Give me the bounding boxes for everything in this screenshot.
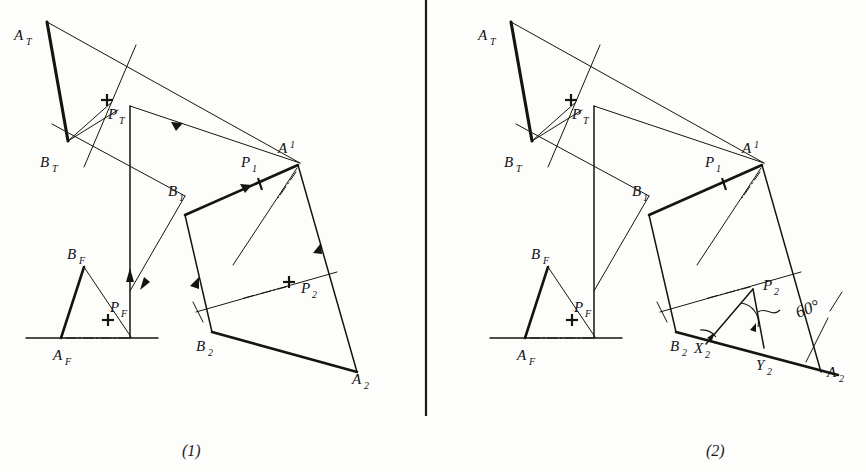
caption-panel-2: (2) xyxy=(706,442,725,460)
panel2-arc-tick-y2 xyxy=(750,323,756,332)
panel1-top-edge-to-a1 xyxy=(130,106,300,163)
label-a-one-sub-p2: 1 xyxy=(754,139,759,150)
label-p-one-p2: P xyxy=(704,154,714,170)
label-x-two-sub-p2: 2 xyxy=(705,349,710,360)
panel2-a1-a2-edge xyxy=(762,165,821,372)
panel1-at-bt-edge xyxy=(47,22,68,141)
label-a-two-sub-p1: 2 xyxy=(364,380,369,391)
panel1-a1-dashdot xyxy=(278,172,296,198)
label-p-front-sub-p1: F xyxy=(120,308,128,319)
panel1-bf-ground-edge xyxy=(84,267,131,337)
label-b-one-sub-p2: 1 xyxy=(643,192,648,203)
label-p-front-p1: P xyxy=(109,299,119,315)
label-y-two-p2: Y xyxy=(756,357,766,373)
panel1-a1-aux-line xyxy=(233,168,297,265)
panel1-p2-line-tick xyxy=(193,302,203,322)
label-b-front-p2: B xyxy=(531,246,540,262)
label-p-two-sub-p2: 2 xyxy=(774,286,779,297)
label-a-front-sub-p2: F xyxy=(528,356,536,367)
panel2-bt-pt-line-a xyxy=(532,102,576,141)
label-p-one-sub-p1: 1 xyxy=(252,163,257,174)
panel2-b1-b2-edge xyxy=(649,215,676,332)
label-a-top-sub-p1: T xyxy=(26,36,33,47)
panel1-top-edge-arrow xyxy=(171,122,183,131)
label-b-two-p2: B xyxy=(670,338,679,354)
panel1-lower-edge-arrow xyxy=(140,277,150,290)
panel2-at-bt-edge xyxy=(511,22,532,141)
label-b-top-sub-p2: T xyxy=(516,163,523,174)
label-a-two-p1: A xyxy=(351,371,362,387)
caption-panel-1: (1) xyxy=(182,442,201,460)
panel1-b2-a2-edge xyxy=(212,332,357,372)
label-p-front-p2: P xyxy=(573,299,583,315)
panel1-p2-dashdot xyxy=(244,287,286,298)
panel2-bf-ground-edge xyxy=(548,267,595,337)
label-b-two-p1: B xyxy=(196,338,205,354)
label-b-front-p1: B xyxy=(67,246,76,262)
technical-drawing-canvas: A T B T P T B F A F P F B 1 P 1 A 1 B 2 … xyxy=(0,0,866,472)
label-y-two-sub-p2: 2 xyxy=(767,366,772,377)
panel2-p2-line-tick xyxy=(657,302,667,322)
panel2-p2-dashdot xyxy=(708,287,750,298)
panel2-pf-crossmark xyxy=(566,314,578,326)
panel2-a1-aux-line xyxy=(697,168,761,265)
label-b-front-sub-p1: F xyxy=(78,255,86,266)
label-a-front-p2: A xyxy=(516,347,527,363)
label-x-two-p2: X xyxy=(693,340,704,356)
panel2-angle-leader-line-top xyxy=(830,292,842,311)
label-p-two-p2: P xyxy=(762,277,772,293)
panel2-angle-leader xyxy=(758,310,780,313)
label-p-top-sub-p1: T xyxy=(119,115,126,126)
label-a-top-sub-p2: T xyxy=(490,36,497,47)
label-b-top-sub-p1: T xyxy=(52,163,59,174)
panel1-projector-arrowhead xyxy=(126,268,134,282)
panel1-b1-a1-edge xyxy=(185,165,298,215)
label-p-two-sub-p1: 2 xyxy=(312,289,317,300)
label-angle-60-p2: 60° xyxy=(793,296,822,322)
label-b-two-sub-p1: 2 xyxy=(208,347,213,358)
label-p-top-p2: P xyxy=(571,106,581,122)
panel2-lower-parallel xyxy=(516,124,649,196)
panel2-b1-a1-edge xyxy=(649,165,762,215)
panel1-a1a2-arrow xyxy=(313,243,322,254)
panel1-bt-pt-line-a xyxy=(68,102,112,141)
panel1-b1b2-arrow xyxy=(190,277,199,289)
figure-page: A T B T P T B F A F P F B 1 P 1 A 1 B 2 … xyxy=(0,0,866,472)
label-b-one-p2: B xyxy=(632,183,641,199)
label-b-top-p2: B xyxy=(504,154,513,170)
label-a-one-p1: A xyxy=(277,140,288,156)
label-p-top-sub-p2: T xyxy=(583,115,590,126)
panel1-lower-edge-to-b1 xyxy=(130,196,185,291)
panel1-af-bf-edge xyxy=(61,267,84,338)
label-a-two-p2: A xyxy=(826,364,837,380)
label-a-one-p2: A xyxy=(741,140,752,156)
label-b-two-sub-p2: 2 xyxy=(682,347,687,358)
panel-2-drawing: A T B T P T B F A F P F B 1 P 1 A 1 B 2 … xyxy=(477,22,844,460)
label-a-top-p1: A xyxy=(13,27,24,43)
label-a-one-sub-p1: 1 xyxy=(290,139,295,150)
panel1-b1-b2-edge xyxy=(185,215,212,332)
panel-1-drawing: A T B T P T B F A F P F B 1 P 1 A 1 B 2 … xyxy=(13,22,369,460)
label-p-front-sub-p2: F xyxy=(584,308,592,319)
label-b-one-p1: B xyxy=(168,183,177,199)
label-a-front-p1: A xyxy=(52,347,63,363)
label-p-two-p1: P xyxy=(300,280,310,296)
label-b-front-sub-p2: F xyxy=(542,255,550,266)
panel2-a1-dashdot xyxy=(742,172,760,198)
label-b-one-sub-p1: 1 xyxy=(179,192,184,203)
label-a-two-sub-p2: 2 xyxy=(839,373,844,384)
label-a-top-p2: A xyxy=(477,27,488,43)
panel1-a1-a2-edge xyxy=(298,165,357,372)
label-p-top-p1: P xyxy=(107,106,117,122)
panel2-top-edge-to-a1 xyxy=(594,106,764,163)
panel1-p2-crossmark xyxy=(283,276,295,288)
label-b-top-p1: B xyxy=(40,154,49,170)
label-a-front-sub-p1: F xyxy=(64,356,72,367)
panel1-pf-crossmark xyxy=(102,314,114,326)
panel2-lower-edge-to-b1 xyxy=(594,196,649,291)
panel1-lower-parallel xyxy=(52,124,185,196)
label-p-one-sub-p2: 1 xyxy=(716,163,721,174)
label-p-one-p1: P xyxy=(240,154,250,170)
panel2-af-bf-edge xyxy=(525,267,548,338)
